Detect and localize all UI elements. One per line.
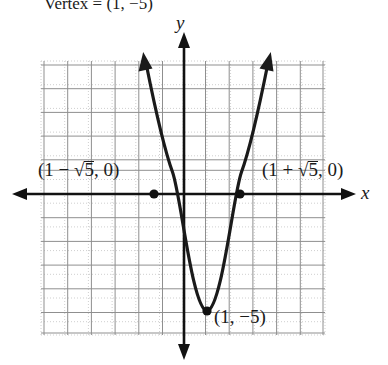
cartesian-plane <box>0 0 388 365</box>
right-root-radical: √5 <box>298 160 318 179</box>
point-left-root <box>149 189 158 198</box>
right-root-radicand: 5 <box>308 159 318 180</box>
left-root-radical: √5 <box>74 160 94 179</box>
curve-arrow-left <box>139 52 153 72</box>
vertex-label: (1, −5) <box>214 307 266 326</box>
left-root-prefix: (1 − <box>38 159 74 180</box>
y-axis <box>178 32 190 360</box>
y-axis-label: y <box>176 13 184 32</box>
left-root-suffix: , 0) <box>94 159 119 180</box>
point-right-root <box>235 189 244 198</box>
right-root-suffix: , 0) <box>318 159 343 180</box>
left-root-radicand: 5 <box>84 159 94 180</box>
right-root-prefix: (1 + <box>262 159 298 180</box>
x-axis-label: x <box>361 183 369 202</box>
left-root-label: (1 − √5, 0) <box>38 160 119 179</box>
curve-arrow-right <box>260 52 274 72</box>
point-vertex <box>202 306 211 315</box>
right-root-label: (1 + √5, 0) <box>262 160 343 179</box>
page-title: Vertex = (1, −5) <box>44 0 153 12</box>
graph-figure: Vertex = (1, −5) y x (1 − √5, 0) (1 + √5… <box>0 0 388 365</box>
